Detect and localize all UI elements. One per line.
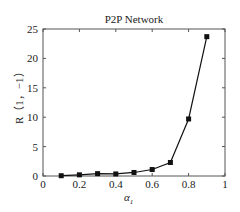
x-tick-label: 0.2 [73,178,87,190]
chart: P2P Network R（1，−1） α1 00.20.40.60.81051… [0,0,240,212]
data-point-marker [113,171,118,176]
series-line [61,37,207,176]
x-tick-label: 0.4 [109,178,123,190]
data-point-marker [77,172,82,177]
y-tick-label: 20 [27,52,39,64]
plot-frame [43,29,225,176]
y-tick-label: 5 [33,141,39,153]
data-point-marker [59,173,64,178]
x-tick-label: 0 [40,178,46,190]
plot-area: 00.20.40.60.810510152025 [0,0,240,212]
data-point-marker [95,171,100,176]
y-tick-label: 0 [33,170,39,182]
data-point-marker [204,34,209,39]
y-tick-label: 25 [27,23,39,35]
x-tick-label: 1 [222,178,228,190]
data-point-marker [150,167,155,172]
data-point-marker [186,116,191,121]
y-tick-label: 10 [27,111,39,123]
x-tick-label: 0.8 [182,178,196,190]
data-point-marker [168,160,173,165]
y-tick-label: 15 [27,82,39,94]
data-point-marker [132,170,137,175]
x-tick-label: 0.6 [145,178,159,190]
